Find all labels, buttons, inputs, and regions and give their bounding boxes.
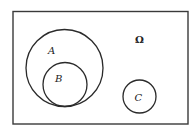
- set-a-label: A: [47, 45, 55, 56]
- venn-diagram: Ω A B C: [0, 0, 196, 134]
- universe-rectangle: [13, 12, 188, 125]
- universe-label: Ω: [135, 34, 144, 45]
- set-b-label: B: [54, 73, 62, 84]
- set-c-label: C: [135, 92, 143, 103]
- set-b-circle: [43, 63, 87, 107]
- set-a-circle: [26, 30, 103, 107]
